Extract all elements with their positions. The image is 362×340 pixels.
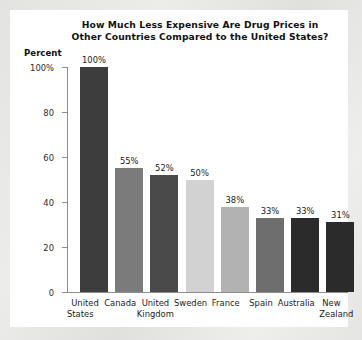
bar-series: 100%55%52%50%38%33%33%31%: [68, 57, 348, 292]
bar[interactable]: [326, 222, 354, 292]
x-axis-label-line-1: United: [71, 298, 99, 308]
bar-value-label: 33%: [250, 206, 290, 216]
x-axis-label: NewZealand: [308, 298, 354, 319]
bar-value-label: 52%: [144, 163, 184, 173]
bar-value-label: 55%: [109, 156, 149, 166]
chart-title-line-2: Other Countries Compared to the United S…: [56, 31, 344, 43]
bar[interactable]: [291, 218, 319, 292]
bar-value-label: 31%: [320, 210, 360, 220]
bar[interactable]: [186, 180, 214, 293]
x-axis-label-line-1: Canada: [104, 298, 136, 308]
bar-group[interactable]: 55%: [115, 57, 143, 292]
bar-group[interactable]: 100%: [80, 57, 108, 292]
y-tick-label: 20: [14, 243, 54, 253]
x-axis-line: [67, 292, 348, 293]
chart-title-line-1: How Much Less Expensive Are Drug Prices …: [56, 19, 344, 31]
chart-card: How Much Less Expensive Are Drug Prices …: [10, 10, 348, 327]
bar-group[interactable]: 50%: [186, 57, 214, 292]
x-axis-label-line-1: United: [142, 298, 170, 308]
bar[interactable]: [80, 67, 108, 292]
y-tick-label: 100%: [14, 63, 54, 73]
x-axis-label-line-1: France: [212, 298, 240, 308]
x-axis-label-line-2: States: [62, 309, 108, 320]
y-axis-title: Percent: [24, 48, 62, 58]
bar-group[interactable]: 38%: [221, 57, 249, 292]
bar-value-label: 33%: [285, 206, 325, 216]
x-axis-label-line-2: Zealand: [308, 309, 354, 320]
plot-area: 100%806040200 100%55%52%50%38%33%33%31%: [57, 57, 348, 292]
y-tick-label: 0: [14, 288, 54, 298]
x-axis-label-line-2: Kingdom: [132, 309, 178, 320]
bar-group[interactable]: 33%: [291, 57, 319, 292]
bar[interactable]: [115, 168, 143, 292]
y-tick-label: 60: [14, 153, 54, 163]
y-tick-label: 40: [14, 198, 54, 208]
bar-group[interactable]: 33%: [256, 57, 284, 292]
bar-group[interactable]: 52%: [150, 57, 178, 292]
bar-value-label: 38%: [215, 195, 255, 205]
y-tick-mark: [62, 292, 68, 293]
bar[interactable]: [150, 175, 178, 292]
bar-value-label: 100%: [74, 55, 114, 65]
x-axis-labels: UnitedStatesCanadaUnitedKingdomSwedenFra…: [68, 298, 359, 326]
x-axis-label-line-1: New: [322, 298, 340, 308]
y-tick-label: 80: [14, 108, 54, 118]
chart-title: How Much Less Expensive Are Drug Prices …: [56, 19, 344, 44]
bar-group[interactable]: 31%: [326, 57, 354, 292]
bar[interactable]: [256, 218, 284, 292]
x-axis-label-line-1: Spain: [249, 298, 272, 308]
bar-value-label: 50%: [180, 168, 220, 178]
bar[interactable]: [221, 207, 249, 293]
